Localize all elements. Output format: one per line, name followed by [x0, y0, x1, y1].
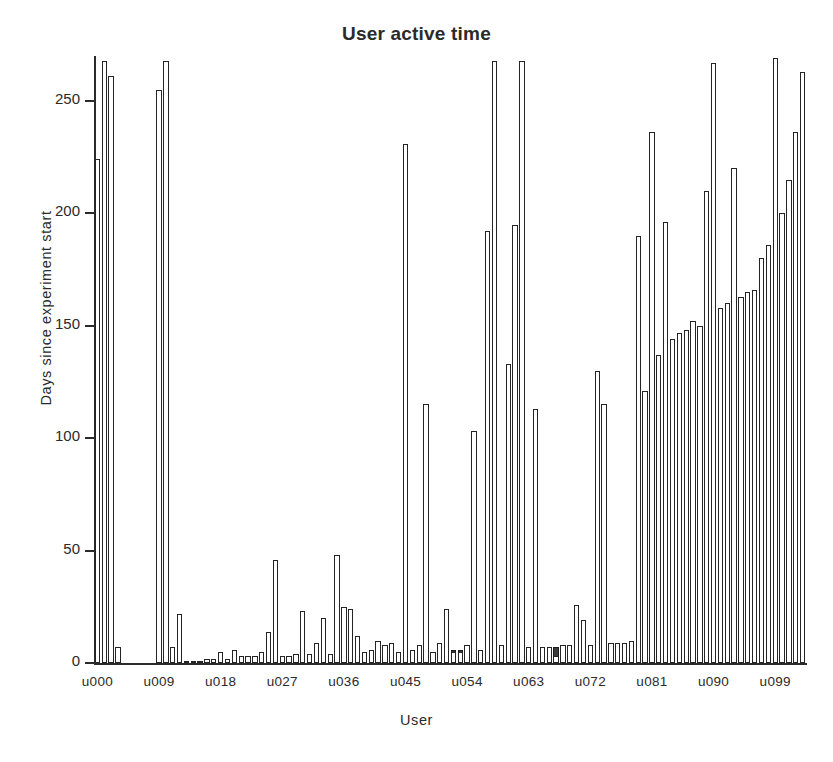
bar	[389, 643, 394, 663]
bar	[423, 404, 428, 663]
bar	[369, 650, 374, 663]
bar	[499, 645, 504, 663]
bar	[191, 661, 196, 663]
bar	[725, 303, 730, 663]
bar	[403, 144, 408, 663]
bar	[362, 652, 367, 663]
bar	[273, 560, 278, 663]
bar	[437, 643, 442, 663]
x-tick-label: u063	[513, 674, 544, 689]
bar	[245, 656, 250, 663]
bar	[759, 258, 764, 663]
bar	[697, 326, 702, 663]
x-tick-label: u090	[698, 674, 729, 689]
bar	[218, 652, 223, 663]
x-axis-line	[94, 663, 807, 665]
plot-area	[94, 56, 806, 663]
bar	[629, 641, 634, 663]
bar	[204, 659, 209, 663]
bar	[704, 191, 709, 663]
y-tick-mark	[85, 662, 94, 664]
bar	[752, 290, 757, 663]
x-tick-label: u099	[760, 674, 791, 689]
bar	[745, 292, 750, 663]
bar	[595, 371, 600, 663]
bar	[670, 339, 675, 663]
bar	[177, 614, 182, 663]
bar	[95, 159, 100, 663]
bar	[731, 168, 736, 663]
y-tick-mark	[85, 437, 94, 439]
chart-figure: User active time Days since experiment s…	[0, 0, 833, 762]
y-tick-label: 100	[34, 427, 80, 444]
bar	[567, 645, 572, 663]
bar	[786, 180, 791, 663]
bar	[574, 605, 579, 663]
bar	[684, 330, 689, 663]
bar	[766, 245, 771, 663]
bar	[656, 355, 661, 663]
bar	[451, 652, 456, 663]
bar	[321, 618, 326, 663]
bar	[636, 236, 641, 663]
bar	[608, 643, 613, 663]
bar	[163, 61, 168, 664]
bar-group	[94, 56, 806, 663]
bar	[444, 609, 449, 663]
bar	[711, 63, 716, 663]
bar	[540, 647, 545, 663]
bar	[690, 321, 695, 663]
x-tick-label: u009	[143, 674, 174, 689]
bar	[458, 652, 463, 663]
bar	[259, 652, 264, 663]
bar	[280, 656, 285, 663]
bar	[779, 213, 784, 663]
bar	[348, 609, 353, 663]
y-tick-mark	[85, 325, 94, 327]
bar	[300, 611, 305, 663]
bar	[560, 645, 565, 663]
bar	[553, 656, 558, 663]
bar	[307, 654, 312, 663]
bar	[334, 555, 339, 663]
bar	[526, 647, 531, 663]
bar	[533, 409, 538, 663]
bar	[102, 61, 107, 664]
bar	[314, 643, 319, 663]
bar	[252, 656, 257, 663]
bar	[642, 391, 647, 663]
bar	[341, 607, 346, 663]
bar	[506, 364, 511, 663]
y-tick-label: 50	[34, 540, 80, 557]
bar	[649, 132, 654, 663]
bar	[615, 643, 620, 663]
bar	[156, 90, 161, 663]
bar	[738, 297, 743, 663]
bar	[793, 132, 798, 663]
y-tick-label: 200	[34, 202, 80, 219]
bar	[430, 652, 435, 663]
bar	[286, 656, 291, 663]
bar	[478, 650, 483, 663]
bar	[184, 661, 189, 663]
y-tick-label: 0	[34, 652, 80, 669]
x-tick-label: u000	[82, 674, 113, 689]
bar	[410, 650, 415, 663]
bar	[519, 61, 524, 664]
bar	[170, 647, 175, 663]
x-tick-label: u027	[267, 674, 298, 689]
bar	[225, 659, 230, 663]
bar	[197, 661, 202, 663]
bar	[581, 620, 586, 663]
x-tick-label: u045	[390, 674, 421, 689]
bar	[800, 72, 805, 663]
x-tick-label: u054	[451, 674, 482, 689]
bar	[464, 645, 469, 663]
bar	[115, 647, 120, 663]
bar	[375, 641, 380, 663]
bar	[677, 333, 682, 663]
bar	[108, 76, 113, 663]
bar	[232, 650, 237, 663]
y-tick-mark	[85, 100, 94, 102]
bar	[601, 404, 606, 663]
